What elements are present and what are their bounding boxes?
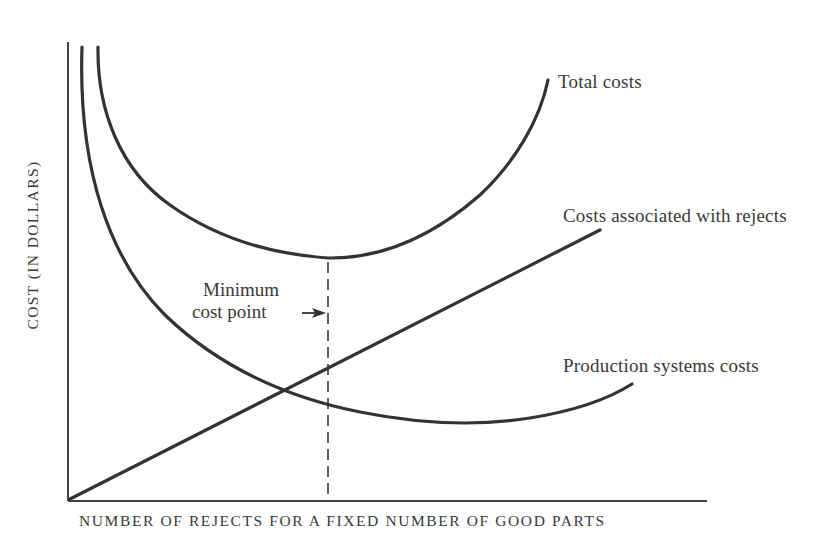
- minimum-cost-annotation: Minimum cost point: [192, 279, 279, 323]
- label-production-costs: Production systems costs: [563, 355, 759, 377]
- annotation-line-1: Minimum: [192, 279, 279, 301]
- production-costs-curve: [82, 47, 632, 423]
- total-costs-curve: [98, 47, 548, 258]
- label-total-costs: Total costs: [558, 71, 642, 93]
- cost-chart: [0, 0, 825, 538]
- y-axis-label: COST (IN DOLLARS): [24, 160, 42, 329]
- label-rejects-costs: Costs associated with rejects: [563, 205, 787, 227]
- rejects-costs-line: [70, 230, 600, 499]
- x-axis-label: NUMBER OF REJECTS FOR A FIXED NUMBER OF …: [79, 512, 606, 530]
- arrow-icon: [302, 308, 326, 318]
- annotation-line-2: cost point: [192, 301, 279, 323]
